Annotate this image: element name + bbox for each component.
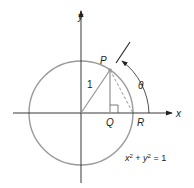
point-p [108,68,112,72]
x-axis-label: x [175,108,182,119]
arc-length-tick [116,42,130,63]
theta-label: θ [138,80,144,91]
right-angle-mark [110,105,118,113]
point-p-label: P [100,55,107,66]
radius-label: 1 [87,79,93,90]
unit-circle-diagram: y x P Q R 1 θ x2 + y2 = 1 [0,0,194,188]
chord-pr [110,70,133,113]
radius-op [81,70,110,113]
point-q-label: Q [106,117,114,128]
point-r-label: R [137,117,144,128]
y-axis-label: y [77,11,84,22]
circle-equation: x2 + y2 = 1 [124,153,166,163]
